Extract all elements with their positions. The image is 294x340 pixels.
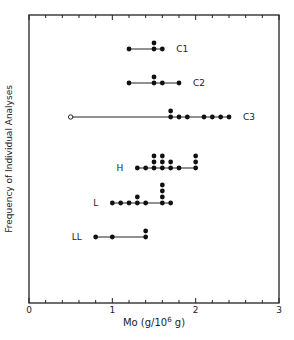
data-point xyxy=(152,81,157,86)
data-point xyxy=(193,160,198,165)
data-point xyxy=(160,160,165,165)
data-point xyxy=(110,201,115,206)
data-point xyxy=(143,166,148,171)
data-point xyxy=(210,115,215,120)
data-point xyxy=(177,166,182,171)
data-point xyxy=(160,189,165,194)
data-point xyxy=(118,201,123,206)
series-label: C2 xyxy=(193,78,205,88)
x-tick-label: 0 xyxy=(26,305,32,315)
data-point xyxy=(185,115,190,120)
series-group: C1C2C3HLLL xyxy=(68,41,255,242)
series-label: C3 xyxy=(243,112,255,122)
data-point-open xyxy=(68,115,72,119)
x-tick-label: 1 xyxy=(109,305,115,315)
dot-strip-chart: 0123 C1C2C3HLLL Mo (g/106 g) Frequency o… xyxy=(0,0,294,340)
data-point xyxy=(177,115,182,120)
series-ll: LL xyxy=(72,229,148,242)
data-point xyxy=(160,154,165,159)
data-point xyxy=(152,166,157,171)
series-c1: C1 xyxy=(127,41,189,54)
data-point xyxy=(127,201,132,206)
data-point xyxy=(218,115,223,120)
plot-frame xyxy=(29,15,279,303)
data-point xyxy=(143,201,148,206)
data-point xyxy=(160,47,165,52)
data-point xyxy=(168,166,173,171)
x-axis-ticks xyxy=(29,15,279,303)
series-label: H xyxy=(117,163,124,173)
data-point xyxy=(160,183,165,188)
data-point xyxy=(152,75,157,80)
y-axis-label: Frequency of Individual Analyses xyxy=(4,85,14,233)
x-axis-label: Mo (g/106 g) xyxy=(123,316,185,328)
x-tick-label: 2 xyxy=(193,305,199,315)
data-point xyxy=(127,81,132,86)
data-point xyxy=(193,154,198,159)
x-axis-tick-labels: 0123 xyxy=(26,305,282,315)
data-point xyxy=(143,229,148,234)
series-label: L xyxy=(93,198,98,208)
x-tick-label: 3 xyxy=(276,305,282,315)
data-point xyxy=(135,166,140,171)
data-point xyxy=(152,160,157,165)
data-point xyxy=(143,235,148,240)
series-c2: C2 xyxy=(127,75,205,88)
data-point xyxy=(177,81,182,86)
data-point xyxy=(160,81,165,86)
data-point xyxy=(152,47,157,52)
data-point xyxy=(110,235,115,240)
data-point xyxy=(168,109,173,114)
data-point xyxy=(160,201,165,206)
data-point xyxy=(135,195,140,200)
data-point xyxy=(202,115,207,120)
data-point xyxy=(168,115,173,120)
data-point xyxy=(193,166,198,171)
series-l: L xyxy=(93,183,173,208)
data-point xyxy=(127,47,132,52)
data-point xyxy=(152,41,157,46)
series-c3: C3 xyxy=(68,109,255,122)
data-point xyxy=(227,115,232,120)
series-label: C1 xyxy=(176,44,188,54)
data-point xyxy=(152,154,157,159)
data-point xyxy=(160,195,165,200)
data-point xyxy=(168,160,173,165)
data-point xyxy=(135,201,140,206)
series-h: H xyxy=(117,154,199,173)
series-label: LL xyxy=(72,232,82,242)
data-point xyxy=(93,235,98,240)
data-point xyxy=(160,166,165,171)
data-point xyxy=(168,201,173,206)
